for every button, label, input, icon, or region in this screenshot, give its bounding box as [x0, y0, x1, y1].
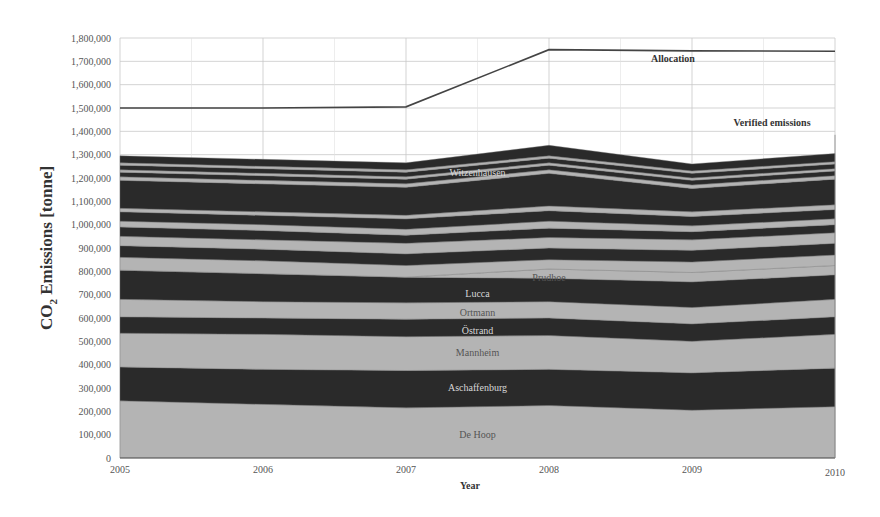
allocation-label: Allocation [651, 53, 695, 64]
y-tick-label: 1,000,000 [71, 219, 111, 230]
x-axis-title: Year [460, 480, 481, 491]
x-tick-label: 2009 [682, 464, 702, 475]
stacked-areas [120, 145, 835, 458]
series-label: De Hoop [459, 429, 495, 440]
y-tick-label: 1,700,000 [71, 56, 111, 67]
x-tick-label: 2007 [396, 464, 416, 475]
series-label: Witzenhausen [449, 167, 505, 178]
x-tick-label: 2005 [110, 464, 130, 475]
y-tick-label: 0 [106, 453, 111, 464]
x-tick-label: 2010 [825, 467, 845, 478]
y-tick-label: 1,100,000 [71, 196, 111, 207]
y-tick-label: 600,000 [79, 313, 112, 324]
y-tick-label: 900,000 [79, 243, 112, 254]
series-label: Prudhoe [532, 272, 566, 283]
series-label: Lucca [465, 288, 490, 299]
y-tick-label: 700,000 [79, 289, 112, 300]
y-tick-label: 1,500,000 [71, 103, 111, 114]
y-tick-label: 1,600,000 [71, 79, 111, 90]
y-tick-label: 1,200,000 [71, 173, 111, 184]
y-tick-label: 1,800,000 [71, 33, 111, 44]
x-tick-label: 2008 [539, 464, 559, 475]
x-axis-ticks: 200520062007200820092010 [110, 464, 845, 478]
y-tick-label: 500,000 [79, 336, 112, 347]
y-tick-label: 800,000 [79, 266, 112, 277]
series-label: Mannheim [456, 347, 500, 358]
y-tick-label: 1,300,000 [71, 149, 111, 160]
y-axis-title: CO2 Emissions [tonne] [37, 166, 59, 330]
y-tick-label: 100,000 [79, 429, 112, 440]
verified-emissions-label: Verified emissions [733, 117, 810, 128]
y-tick-label: 200,000 [79, 406, 112, 417]
x-tick-label: 2006 [253, 464, 273, 475]
y-tick-label: 1,400,000 [71, 126, 111, 137]
series-label: Östrand [462, 325, 494, 336]
y-tick-label: 400,000 [79, 359, 112, 370]
stacked-area-chart: 0100,000200,000300,000400,000500,000600,… [0, 0, 880, 517]
y-axis-ticks: 0100,000200,000300,000400,000500,000600,… [71, 33, 111, 464]
series-label: Aschaffenburg [448, 382, 507, 393]
series-label: Ortmann [460, 307, 496, 318]
y-tick-label: 300,000 [79, 383, 112, 394]
